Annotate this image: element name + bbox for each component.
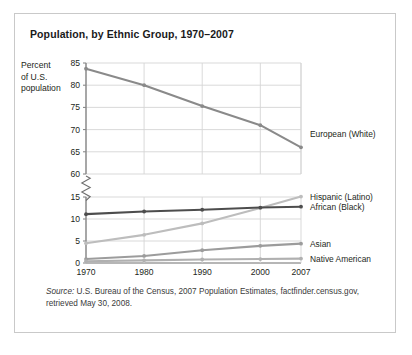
series-line [86, 259, 301, 262]
y-tick-label: 70 [70, 125, 80, 135]
y-axis-title-line: of U.S. [21, 72, 47, 82]
series-label: Asian [310, 239, 331, 249]
series-line [86, 244, 301, 259]
x-tick-label: 1980 [135, 267, 154, 277]
y-tick-label: 10 [70, 214, 80, 224]
data-point-marker [299, 257, 303, 261]
y-axis-title-line: Percent [21, 60, 51, 70]
y-tick-label: 85 [70, 58, 80, 68]
data-point-marker [84, 241, 88, 245]
chart-plot-area: 85807570656015105019701980199020002007Ye… [15, 44, 397, 279]
series-label: African (Black) [310, 202, 365, 212]
source-label: Source: [46, 287, 74, 296]
series-label: Hispanic (Latino) [310, 192, 373, 202]
data-point-marker [200, 248, 204, 252]
data-point-marker [142, 254, 146, 258]
series-line [86, 69, 301, 148]
data-point-marker [142, 210, 146, 214]
data-point-marker [258, 244, 262, 248]
y-tick-label: 80 [70, 80, 80, 90]
data-point-marker [200, 258, 204, 262]
page-title: Population, by Ethnic Group, 1970–2007 [30, 28, 234, 40]
chart-card: Population, by Ethnic Group, 1970–2007 8… [14, 13, 396, 333]
data-point-marker [142, 258, 146, 262]
population-line-chart: 85807570656015105019701980199020002007Ye… [15, 44, 397, 279]
data-point-marker [299, 195, 303, 199]
data-point-marker [299, 205, 303, 209]
data-point-marker [142, 233, 146, 237]
y-tick-label: 15 [70, 192, 80, 202]
data-point-marker [258, 123, 262, 127]
y-tick-label: 60 [70, 169, 80, 179]
data-point-marker [84, 67, 88, 71]
x-tick-label: 1970 [76, 267, 95, 277]
series-line [86, 197, 301, 244]
data-point-marker [258, 206, 262, 210]
y-tick-label: 5 [75, 236, 80, 246]
source-text: U.S. Bureau of the Census, 2007 Populati… [46, 287, 359, 308]
series-label: Native American [310, 254, 371, 264]
data-point-marker [84, 212, 88, 216]
data-point-marker [200, 208, 204, 212]
y-axis-title-line: population [21, 83, 61, 93]
data-point-marker [258, 257, 262, 261]
x-tick-label: 2007 [291, 267, 310, 277]
series-line [86, 207, 301, 214]
y-tick-label: 65 [70, 147, 80, 157]
data-point-marker [84, 259, 88, 263]
data-point-marker [142, 83, 146, 87]
data-point-marker [299, 242, 303, 246]
source-note: Source: U.S. Bureau of the Census, 2007 … [46, 286, 376, 309]
x-tick-label: 1990 [193, 267, 212, 277]
data-point-marker [299, 145, 303, 149]
y-tick-label: 75 [70, 102, 80, 112]
data-point-marker [200, 222, 204, 226]
data-point-marker [200, 104, 204, 108]
series-label: European (White) [310, 129, 376, 139]
x-tick-label: 2000 [251, 267, 270, 277]
